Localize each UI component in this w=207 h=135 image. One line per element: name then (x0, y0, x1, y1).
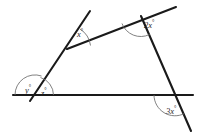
degree-symbol-icon: ° (152, 19, 154, 25)
degree-symbol-icon: ° (29, 84, 31, 90)
degree-symbol-icon: ° (44, 87, 46, 93)
degree-symbol-icon: ° (174, 105, 176, 111)
angle-label-2x: 2x° (144, 19, 154, 29)
upper-slant-segment (67, 7, 176, 49)
left-transversal-segment (30, 11, 90, 101)
angle-label-z: z° (41, 87, 47, 97)
angle-label-x: x° (77, 28, 83, 38)
angle-label-2x-value: 2x (144, 20, 152, 30)
angle-label-y: y° (25, 84, 31, 94)
angle-label-3x-value: 3x (166, 106, 174, 116)
degree-symbol-icon: ° (81, 28, 83, 34)
angle-label-3x: 3x° (166, 105, 176, 115)
angle-diagram-figure: x° 2x° y° z° 3x° (0, 0, 207, 135)
